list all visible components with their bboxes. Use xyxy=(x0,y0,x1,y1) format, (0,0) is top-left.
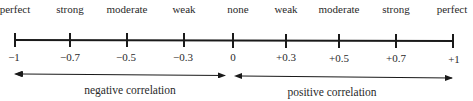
positive-range-arrow xyxy=(241,76,452,78)
tick-value-label: +0.7 xyxy=(386,53,406,64)
strength-label: weak xyxy=(172,4,195,15)
strength-label: strong xyxy=(382,4,410,15)
strength-label: perfect xyxy=(0,4,30,15)
strength-label: perfect xyxy=(437,4,468,15)
arrowhead-left-icon xyxy=(234,73,242,79)
strength-label: strong xyxy=(56,4,84,15)
tick-value-label: +0.3 xyxy=(276,52,296,63)
positive-correlation-caption: positive correlation xyxy=(287,87,376,99)
strength-label: moderate xyxy=(319,4,360,15)
tick-value-label: 0 xyxy=(230,52,236,63)
arrowhead-left-icon xyxy=(15,71,23,77)
strength-label: weak xyxy=(274,4,297,15)
negative-range-arrow xyxy=(22,74,225,76)
negative-correlation-caption: negative correlation xyxy=(84,85,176,97)
tick-value-label: −0.5 xyxy=(116,52,136,63)
strength-label: none xyxy=(227,4,248,15)
tick-value-label: +0.5 xyxy=(329,53,349,64)
tick-value-label: −0.7 xyxy=(60,52,80,63)
correlation-scale-diagram: perfect strong moderate weak none weak m… xyxy=(0,0,473,101)
tick-value-label: −0.3 xyxy=(173,52,193,63)
tick-value-label: +1 xyxy=(448,54,460,65)
tick-value-label: −1 xyxy=(8,52,20,63)
strength-label: moderate xyxy=(107,4,148,15)
